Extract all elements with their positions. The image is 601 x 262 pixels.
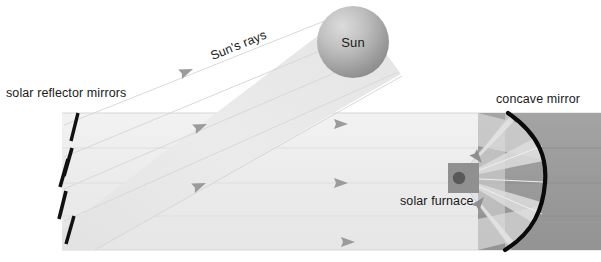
solar-furnace	[448, 163, 479, 193]
solar-reflector-mirrors-label: solar reflector mirrors	[6, 86, 126, 100]
sun-label: Sun	[341, 35, 364, 50]
solar-furnace-focus-point	[453, 172, 465, 184]
arrow-head-icon	[178, 64, 195, 79]
sun: Sun	[317, 6, 389, 78]
diagram-canvas: Sun Sun's rays solar reflector mirrors c…	[0, 0, 601, 262]
solar-furnace-diagram: Sun Sun's rays solar reflector mirrors c…	[0, 0, 601, 262]
solar-furnace-label: solar furnace	[400, 194, 474, 208]
suns-rays-label: Sun's rays	[209, 28, 269, 63]
concave-mirror-label: concave mirror	[496, 92, 580, 106]
